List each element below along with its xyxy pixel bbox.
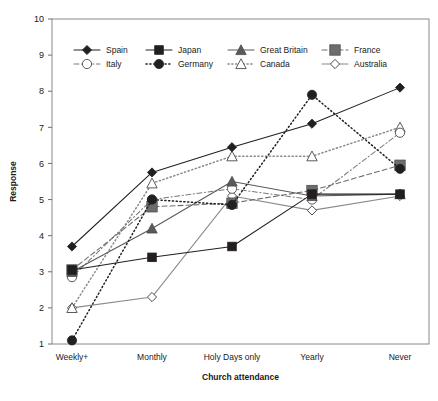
legend-label: Germany — [178, 59, 214, 69]
legend-item-australia: Australia — [322, 59, 387, 69]
y-tick-label: 7 — [39, 123, 44, 133]
legend: SpainJapanGreat BritainFranceItalyGerman… — [74, 45, 387, 69]
x-tick-label: Never — [389, 352, 412, 362]
line-chart: 12345678910ResponseWeekly+MonthlyHoly Da… — [0, 0, 438, 401]
x-tick-label: Weekly+ — [56, 352, 89, 362]
x-axis-title: Church attendance — [202, 372, 279, 382]
data-point-marker — [67, 336, 76, 345]
data-point-marker — [307, 119, 316, 128]
data-point-marker — [154, 59, 163, 68]
y-tick-label: 10 — [34, 14, 44, 24]
series-line — [72, 127, 400, 308]
data-point-marker — [228, 242, 237, 251]
data-point-marker — [395, 128, 404, 137]
data-point-marker — [148, 253, 157, 262]
y-tick-label: 6 — [39, 159, 44, 169]
legend-item-great-britain: Great Britain — [228, 45, 308, 55]
legend-label: Spain — [106, 45, 128, 55]
data-point-marker — [395, 164, 404, 173]
data-point-marker — [307, 206, 316, 215]
data-point-marker — [227, 176, 237, 186]
data-point-marker — [82, 59, 91, 68]
data-point-marker — [147, 292, 156, 301]
legend-item-germany: Germany — [146, 59, 214, 69]
legend-item-france: France — [322, 45, 381, 55]
data-point-marker — [227, 200, 236, 209]
y-tick-label: 1 — [39, 339, 44, 349]
series-germany — [67, 90, 404, 345]
data-point-marker — [308, 190, 317, 199]
series-line — [72, 196, 400, 308]
data-point-marker — [395, 83, 404, 92]
chart-container: 12345678910ResponseWeekly+MonthlyHoly Da… — [0, 0, 438, 401]
data-point-marker — [155, 46, 164, 55]
data-point-marker — [147, 195, 156, 204]
y-tick-label: 4 — [39, 231, 44, 241]
data-point-marker — [227, 143, 236, 152]
legend-label: Australia — [354, 59, 387, 69]
legend-label: Canada — [260, 59, 290, 69]
y-tick-label: 9 — [39, 50, 44, 60]
data-point-marker — [307, 90, 316, 99]
x-tick-label: Holy Days only — [204, 352, 261, 362]
data-point-marker — [330, 45, 340, 55]
legend-label: Great Britain — [260, 45, 308, 55]
series-line — [72, 88, 400, 247]
series-australia — [67, 191, 404, 312]
data-point-marker — [68, 266, 77, 275]
data-point-marker — [330, 59, 339, 68]
data-point-marker — [82, 45, 91, 54]
legend-item-canada: Canada — [228, 59, 290, 69]
x-tick-label: Monthly — [137, 352, 168, 362]
y-tick-label: 8 — [39, 86, 44, 96]
data-point-marker — [396, 190, 405, 199]
x-tick-label: Yearly — [300, 352, 324, 362]
y-tick-label: 3 — [39, 267, 44, 277]
data-point-marker — [147, 223, 157, 233]
series-france — [67, 160, 405, 275]
series-line — [72, 95, 400, 341]
legend-label: Japan — [178, 45, 201, 55]
series-canada — [67, 122, 405, 312]
legend-item-japan: Japan — [146, 45, 201, 55]
legend-label: France — [354, 45, 381, 55]
legend-item-spain: Spain — [74, 45, 128, 55]
y-axis-title: Response — [8, 161, 18, 202]
data-point-marker — [147, 178, 157, 188]
y-tick-label: 2 — [39, 303, 44, 313]
legend-label: Italy — [106, 59, 122, 69]
legend-item-italy: Italy — [74, 59, 122, 69]
y-tick-label: 5 — [39, 195, 44, 205]
